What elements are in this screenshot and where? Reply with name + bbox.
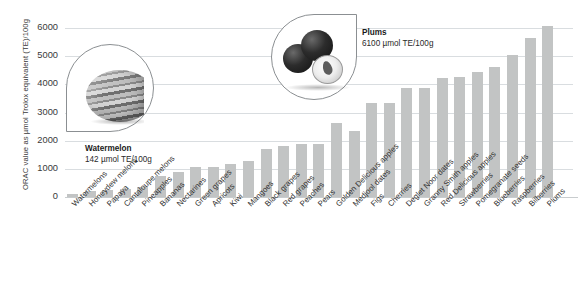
plums-callout-name: Plums [362,27,433,38]
watermelon-callout-value: 142 µmol TE/100g [85,154,152,165]
watermelon-callout-name: Watermelon [85,143,152,154]
watermelon-callout-label: Watermelon 142 µmol TE/100g [85,143,152,165]
watermelon-photo [76,52,144,125]
plums-callout-value: 6100 µmol TE/100g [362,38,433,49]
orac-fruit-bar-chart: ORAC value as µmol Trolox equivalent (TE… [0,0,579,291]
plums-photo [279,22,351,94]
plums-callout-label: Plums 6100 µmol TE/100g [362,27,433,49]
